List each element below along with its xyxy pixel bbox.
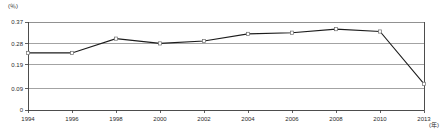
data-markers-group <box>26 28 425 86</box>
x-tick-label: 2002 <box>197 116 211 122</box>
y-tick-label: 0.28 <box>11 41 23 47</box>
line-chart: (％) 00.090.190.280.37 199419961998200020… <box>0 0 441 130</box>
data-point-marker <box>378 30 381 33</box>
y-tick-labels-group: 00.090.190.280.37 <box>11 19 23 113</box>
x-axis-unit-label: (年) <box>429 121 439 129</box>
data-point-marker <box>26 51 29 54</box>
x-tick-label: 1996 <box>65 116 79 122</box>
data-point-marker <box>70 51 73 54</box>
data-point-marker <box>202 39 205 42</box>
y-tick-label: 0.09 <box>11 86 23 92</box>
data-point-marker <box>158 42 161 45</box>
axis-lines-group <box>28 22 424 110</box>
series-line <box>28 29 424 84</box>
x-tick-labels-group: 1994199619982000200220042006200820102013 <box>21 116 431 122</box>
y-tick-label: 0.19 <box>11 62 23 68</box>
chart-plot-area: 00.090.190.280.37 1994199619982000200220… <box>0 0 441 130</box>
x-tick-label: 1998 <box>109 116 123 122</box>
x-tick-label: 1994 <box>21 116 35 122</box>
x-tick-label: 2000 <box>153 116 167 122</box>
x-tick-label: 2010 <box>373 116 387 122</box>
data-point-marker <box>334 28 337 31</box>
x-tick-label: 2006 <box>285 116 299 122</box>
data-point-marker <box>114 37 117 40</box>
x-tick-label: 2008 <box>329 116 343 122</box>
y-tick-label: 0 <box>20 107 24 113</box>
y-tick-label: 0.37 <box>11 19 23 25</box>
gridlines-group <box>28 22 424 89</box>
x-tick-label: 2004 <box>241 116 255 122</box>
data-series-group <box>28 29 424 84</box>
data-point-marker <box>422 82 425 85</box>
data-point-marker <box>246 32 249 35</box>
data-point-marker <box>290 31 293 34</box>
